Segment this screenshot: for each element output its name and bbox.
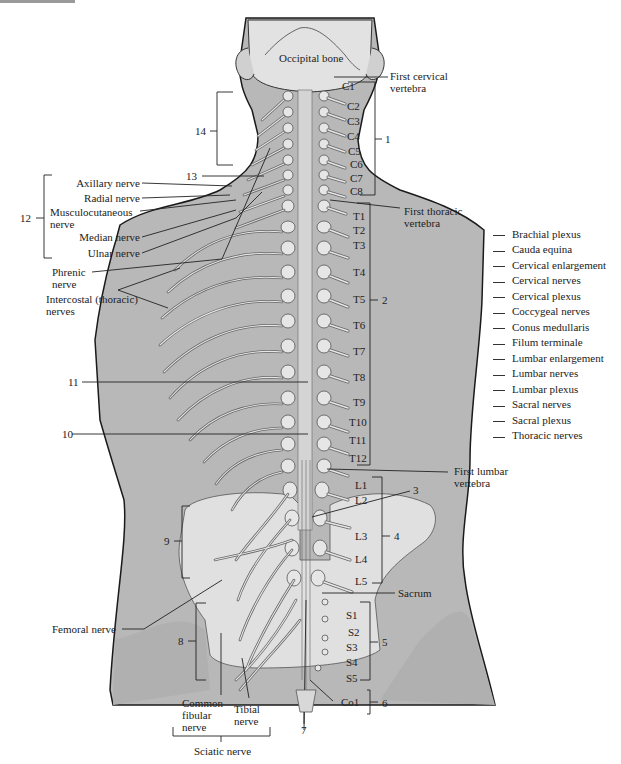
callout-9: 9 (164, 535, 170, 547)
term-item: Lumbar nerves (493, 366, 606, 382)
blank-line (493, 421, 505, 422)
label-common-fibular-nerve: Common fibular nerve (182, 697, 223, 733)
callout-1: 1 (385, 133, 391, 145)
vertebra-C5: C5 (348, 145, 361, 157)
term-item: Brachial plexus (493, 226, 606, 242)
term-item: Cervical nerves (493, 273, 606, 289)
term-item: Conus medullaris (493, 319, 606, 335)
label-sciatic-nerve: Sciatic nerve (194, 745, 251, 757)
callout-10: 10 (62, 428, 73, 440)
term-item: Cervical plexus (493, 288, 606, 304)
vertebra-T6: T6 (353, 319, 365, 331)
vertebra-L5: L5 (355, 575, 367, 587)
vertebra-S2: S2 (348, 626, 360, 638)
vertebra-S3: S3 (346, 641, 358, 653)
label-femoral-nerve: Femoral nerve (52, 623, 116, 635)
vertebra-C4: C4 (347, 130, 360, 142)
vertebra-T12: T12 (349, 452, 367, 464)
blank-line (493, 344, 505, 345)
callout-13: 13 (186, 170, 197, 182)
blank-line (493, 235, 505, 236)
label-median-nerve: Median nerve (50, 231, 140, 243)
term-item: Sacral plexus (493, 412, 606, 428)
blank-line (493, 282, 505, 283)
vertebra-T3: T3 (353, 239, 365, 251)
label-first-cervical-vertebra: First cervical vertebra (390, 70, 448, 94)
blank-line (493, 359, 505, 360)
label-first-lumbar-vertebra: First lumbar vertebra (454, 465, 508, 489)
blank-line (493, 328, 505, 329)
label-tibial-nerve: Tibial nerve (234, 703, 260, 727)
term-item: Lumbar plexus (493, 381, 606, 397)
label-intercostal-nerves: Intercostal (thoracic) nerves (46, 293, 138, 317)
label-radial-nerve: Radial nerve (60, 192, 140, 204)
label-phrenic-nerve: Phrenic nerve (52, 266, 86, 290)
blank-line (493, 251, 505, 252)
vertebra-C6: C6 (350, 158, 363, 170)
blank-line (493, 266, 505, 267)
vertebra-T11: T11 (349, 434, 366, 446)
vertebra-C1: C1 (342, 80, 355, 92)
callout-14: 14 (195, 125, 206, 137)
vertebra-T8: T8 (353, 371, 365, 383)
term-item: Cervical enlargement (493, 257, 606, 273)
blank-line (493, 313, 505, 314)
callout-5: 5 (382, 636, 388, 648)
term-item: Cauda equina (493, 242, 606, 258)
label-first-thoracic-vertebra: First thoracic vertebra (404, 205, 462, 229)
vertebra-L3: L3 (355, 530, 367, 542)
callout-6: 6 (382, 697, 388, 709)
term-item: Filum terminale (493, 335, 606, 351)
vertebra-T1: T1 (353, 210, 365, 222)
vertebra-L4: L4 (355, 553, 367, 565)
label-musculocutaneous-nerve: Musculocutaneous nerve (50, 206, 132, 230)
label-ulnar-nerve: Ulnar nerve (50, 247, 140, 259)
vertebra-L2: L2 (355, 494, 367, 506)
vertebra-T5: T5 (353, 293, 365, 305)
spinal-nerve-diagram: Occipital bone First cervical vertebra F… (0, 0, 621, 764)
vertebra-T10: T10 (349, 416, 367, 428)
callout-8: 8 (178, 635, 184, 647)
term-item: Coccygeal nerves (493, 304, 606, 320)
vertebra-T9: T9 (353, 396, 365, 408)
blank-line (493, 406, 505, 407)
blank-line (493, 375, 505, 376)
vertebra-C3: C3 (347, 115, 360, 127)
callout-2: 2 (382, 294, 388, 306)
label-sacrum: Sacrum (398, 587, 432, 599)
term-item: Sacral nerves (493, 397, 606, 413)
callout-7: 7 (301, 724, 307, 736)
vertebra-Co1: Co1 (341, 696, 359, 708)
vertebra-C8: C8 (350, 185, 363, 197)
term-item: Thoracic nerves (493, 428, 606, 444)
vertebra-T2: T2 (353, 224, 365, 236)
term-item: Lumbar enlargement (493, 350, 606, 366)
blank-line (493, 390, 505, 391)
label-axillary-nerve: Axillary nerve (60, 177, 140, 189)
callout-12: 12 (20, 212, 31, 224)
vertebra-S1: S1 (346, 609, 358, 621)
vertebra-C2: C2 (347, 100, 360, 112)
label-occipital-bone: Occipital bone (279, 52, 343, 64)
term-list: Brachial plexus Cauda equina Cervical en… (493, 226, 606, 443)
vertebra-T7: T7 (353, 345, 365, 357)
vertebra-S4: S4 (346, 656, 358, 668)
callout-11: 11 (68, 376, 79, 388)
vertebra-L1: L1 (355, 479, 367, 491)
callout-3: 3 (413, 484, 419, 496)
blank-line (493, 297, 505, 298)
vertebra-C7: C7 (350, 172, 363, 184)
blank-line (493, 437, 505, 438)
vertebra-S5: S5 (346, 672, 358, 684)
vertebra-T4: T4 (353, 266, 365, 278)
callout-4: 4 (394, 530, 400, 542)
